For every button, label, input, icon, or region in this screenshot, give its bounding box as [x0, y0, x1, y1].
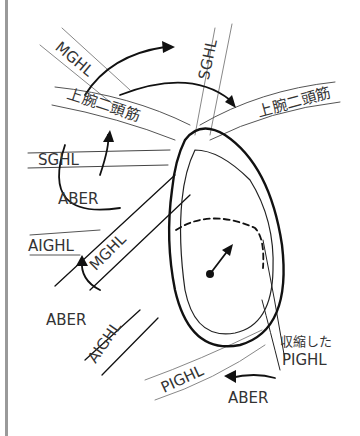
arc-top-head — [162, 41, 175, 53]
glenoid-inner — [181, 150, 274, 334]
label-pighl-right: PIGHL — [282, 353, 327, 368]
arc-bottom — [230, 375, 275, 378]
label-aber-mid: ABER — [46, 313, 86, 328]
arc-top — [85, 47, 165, 95]
arc-up-arrow-head — [103, 130, 114, 142]
label-aber-bottom: ABER — [228, 391, 268, 406]
arc-bottom-head — [224, 370, 236, 383]
arc-top-right — [120, 83, 230, 100]
label-contracted: 収縮した — [280, 335, 332, 348]
label-sghl-left: SGHL — [38, 153, 79, 168]
glenoid-outer — [169, 129, 283, 347]
label-aighl-left: AIGHL — [28, 239, 74, 254]
label-aber-upper: ABER — [58, 192, 98, 207]
center-arrow-head — [222, 244, 233, 256]
